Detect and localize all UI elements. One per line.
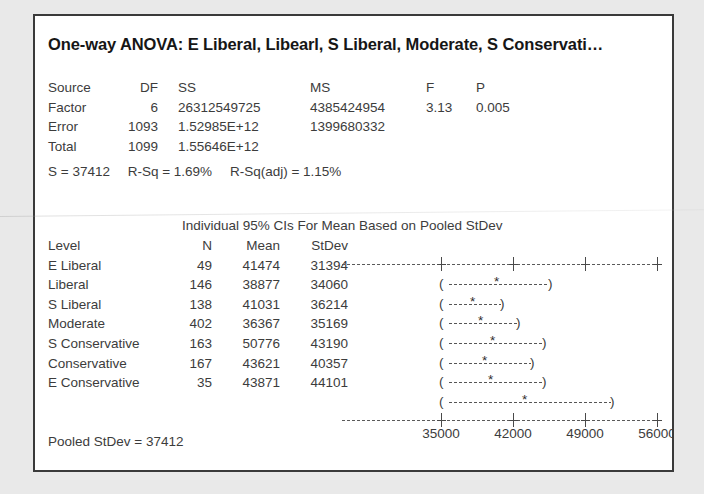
ci-mean-marker: * bbox=[470, 292, 475, 312]
anova-cell-ss: 26312549725 bbox=[178, 98, 306, 118]
level-n: 167 bbox=[166, 354, 212, 374]
level-mean: 41474 bbox=[224, 256, 280, 276]
axis-tick-49000 bbox=[585, 257, 586, 271]
level-n: 35 bbox=[166, 373, 212, 393]
ci-bar-row: (*) bbox=[339, 334, 669, 354]
level-header-mean: Mean bbox=[224, 236, 280, 256]
anova-cell-ms: 4385424954 bbox=[310, 98, 420, 118]
ci-upper-paren: ) bbox=[516, 313, 521, 333]
level-mean: 43871 bbox=[224, 373, 280, 393]
level-name: E Liberal bbox=[48, 256, 178, 276]
axis-tick-label: 56000 bbox=[638, 426, 674, 441]
level-mean: 41031 bbox=[224, 295, 280, 315]
anova-cell-source: Total bbox=[48, 137, 118, 157]
level-n: 146 bbox=[166, 275, 212, 295]
level-name: Liberal bbox=[48, 275, 178, 295]
ci-line bbox=[449, 363, 531, 364]
anova-header-ms: MS bbox=[310, 78, 420, 98]
level-mean: 38877 bbox=[224, 275, 280, 295]
ci-lower-paren: ( bbox=[439, 294, 444, 314]
level-header-level: Level bbox=[48, 236, 178, 256]
pooled-stdev-line: Pooled StDev = 37412 bbox=[48, 434, 183, 449]
anova-header-source: Source bbox=[48, 78, 118, 98]
ci-line bbox=[449, 382, 543, 383]
ci-interval-e-liberal: (*) bbox=[443, 275, 553, 295]
axis-tick-label: 35000 bbox=[422, 426, 460, 441]
ci-mean-marker: * bbox=[522, 390, 527, 410]
ci-interval-moderate: (*) bbox=[443, 334, 547, 354]
anova-header-p: P bbox=[476, 78, 536, 98]
axis-tick-label: 49000 bbox=[566, 426, 604, 441]
axis-line bbox=[342, 420, 660, 421]
anova-cell-ss: 1.55646E+12 bbox=[178, 137, 306, 157]
axis-tick-56000 bbox=[657, 257, 658, 271]
ci-bar-row: (*) bbox=[339, 295, 669, 315]
anova-cell-source: Error bbox=[48, 117, 118, 137]
anova-cell-p: 0.005 bbox=[476, 98, 536, 118]
level-name: S Conservative bbox=[48, 334, 178, 354]
anova-header-f: F bbox=[426, 78, 470, 98]
ci-mean-marker: * bbox=[478, 311, 483, 331]
ci-lower-paren: ( bbox=[439, 372, 444, 392]
level-n: 138 bbox=[166, 295, 212, 315]
anova-header-df: DF bbox=[114, 78, 158, 98]
axis-tick-56000 bbox=[657, 413, 658, 427]
ci-bar-group: (*)(*)(*)(*)(*)(*)(*) bbox=[339, 275, 669, 412]
axis-tick-49000 bbox=[585, 413, 586, 427]
anova-header-ss: SS bbox=[178, 78, 306, 98]
anova-cell-ss: 1.52985E+12 bbox=[178, 117, 306, 137]
ci-interval-e-conservative: (*) bbox=[443, 393, 615, 413]
ci-upper-paren: ) bbox=[530, 353, 535, 373]
ci-section-header: Individual 95% CIs For Mean Based on Poo… bbox=[182, 218, 502, 233]
ci-bar-row: (*) bbox=[339, 393, 669, 413]
ci-upper-paren: ) bbox=[500, 294, 505, 314]
ci-mean-marker: * bbox=[490, 331, 495, 351]
level-header-n: N bbox=[166, 236, 212, 256]
ci-interval-conservative: (*) bbox=[443, 373, 547, 393]
ci-bar-row: (*) bbox=[339, 373, 669, 393]
anova-cell-ms: 1399680332 bbox=[310, 117, 420, 137]
anova-cell-f: 3.13 bbox=[426, 98, 470, 118]
anova-cell-source: Factor bbox=[48, 98, 118, 118]
level-name: Conservative bbox=[48, 354, 178, 374]
page-title: One-way ANOVA: E Liberal, Libearl, S Lib… bbox=[48, 35, 603, 54]
axis-tick-label: 42000 bbox=[494, 426, 532, 441]
level-mean: 36367 bbox=[224, 314, 280, 334]
ci-bar-row: (*) bbox=[339, 314, 669, 334]
level-mean: 50776 bbox=[224, 334, 280, 354]
ci-upper-paren: ) bbox=[542, 372, 547, 392]
anova-cell-df: 1093 bbox=[114, 117, 158, 137]
axis-line bbox=[342, 264, 660, 265]
ci-lower-paren: ( bbox=[439, 333, 444, 353]
level-n: 163 bbox=[166, 334, 212, 354]
axis-tick-labels: 35000420004900056000 bbox=[339, 426, 674, 444]
level-name: E Conservative bbox=[48, 373, 178, 393]
axis-tick-35000 bbox=[441, 413, 442, 427]
level-n: 402 bbox=[166, 314, 212, 334]
ci-lower-paren: ( bbox=[439, 274, 444, 294]
ci-upper-paren: ) bbox=[610, 392, 615, 412]
ci-mean-marker: * bbox=[482, 351, 487, 371]
level-mean: 43621 bbox=[224, 354, 280, 374]
ci-mean-marker: * bbox=[488, 370, 493, 390]
ci-line bbox=[449, 402, 611, 403]
ci-interval-liberal: (*) bbox=[443, 295, 505, 315]
ci-axis-top bbox=[339, 256, 669, 276]
ci-lower-paren: ( bbox=[439, 353, 444, 373]
ci-mean-marker: * bbox=[494, 272, 499, 292]
axis-tick-42000 bbox=[513, 257, 514, 271]
ci-plot: (*)(*)(*)(*)(*)(*)(*) 350004200049000560… bbox=[339, 236, 669, 436]
anova-cell-df: 6 bbox=[114, 98, 158, 118]
summary-rsq: R-Sq = 1.69% bbox=[128, 164, 212, 179]
ci-line bbox=[449, 343, 543, 344]
summary-s: S = 37412 bbox=[48, 164, 110, 179]
model-summary-line: S = 37412 R-Sq = 1.69% R-Sq(adj) = 1.15% bbox=[48, 164, 341, 179]
ci-bar-row: (*) bbox=[339, 275, 669, 295]
ci-upper-paren: ) bbox=[548, 274, 553, 294]
ci-lower-paren: ( bbox=[439, 313, 444, 333]
axis-tick-35000 bbox=[441, 257, 442, 271]
level-name: Moderate bbox=[48, 314, 178, 334]
ci-upper-paren: ) bbox=[542, 333, 547, 353]
axis-tick-42000 bbox=[513, 413, 514, 427]
ci-bar-row: (*) bbox=[339, 354, 669, 374]
